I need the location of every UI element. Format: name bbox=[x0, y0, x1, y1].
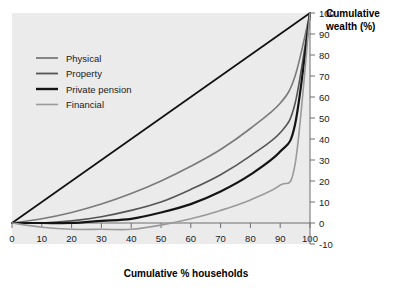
legend-label-private-pension: Private pension bbox=[66, 84, 131, 95]
y-axis-tick-label: 50 bbox=[319, 113, 330, 124]
x-axis-tick-label: 70 bbox=[215, 233, 226, 244]
y-axis-tick-label: 30 bbox=[319, 155, 330, 166]
x-axis-tick-label: 0 bbox=[9, 233, 14, 244]
y-axis-tick-label: -10 bbox=[319, 239, 333, 250]
y-axis-tick-label: 70 bbox=[319, 71, 330, 82]
x-axis-tick-label: 20 bbox=[66, 233, 77, 244]
x-axis-tick-label: 10 bbox=[37, 233, 48, 244]
legend-label-financial: Financial bbox=[66, 99, 104, 110]
x-axis-tick-label: 90 bbox=[275, 233, 286, 244]
y-axis-tick-label: 0 bbox=[319, 218, 324, 229]
y-axis-tick-label: 20 bbox=[319, 176, 330, 187]
legend-label-property: Property bbox=[66, 68, 102, 79]
legend-label-physical: Physical bbox=[66, 53, 101, 64]
y-axis-tick-label: 40 bbox=[319, 134, 330, 145]
x-axis-title: Cumulative % households bbox=[124, 268, 249, 279]
x-axis-tick-label: 50 bbox=[156, 233, 167, 244]
y-axis-title-line2: wealth (%) bbox=[325, 21, 375, 32]
lorenz-curve-chart: 0102030405060708090100 -1001020304050607… bbox=[0, 0, 395, 288]
x-axis-tick-label: 60 bbox=[186, 233, 197, 244]
y-axis-title-line1: Cumulative bbox=[326, 8, 380, 19]
x-axis-tick-label: 30 bbox=[96, 233, 107, 244]
x-axis-tick-label: 40 bbox=[126, 233, 137, 244]
x-axis-tick-label: 80 bbox=[245, 233, 256, 244]
y-axis-tick-label: 10 bbox=[319, 197, 330, 208]
plot-area-background bbox=[12, 13, 310, 244]
y-axis-tick-label: 80 bbox=[319, 50, 330, 61]
y-axis-tick-label: 60 bbox=[319, 92, 330, 103]
